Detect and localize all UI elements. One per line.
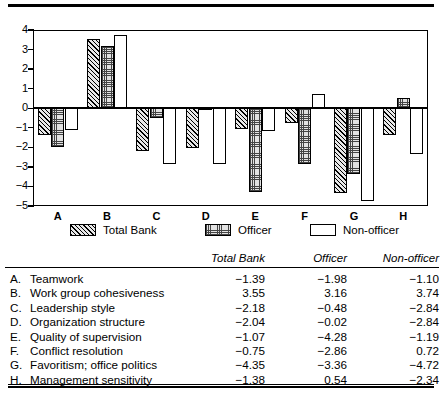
- cell-officer: −1.98: [265, 268, 347, 286]
- row-name: Leadership style: [30, 300, 179, 314]
- bar-G-officer: [347, 108, 360, 174]
- row-key: B.: [5, 286, 30, 300]
- y-tick-mark: [28, 166, 34, 167]
- row-name: Conflict resolution: [30, 343, 179, 357]
- table-row: E.Quality of supervision−1.07−4.28−1.19: [5, 329, 439, 343]
- x-tick-label-E: E: [235, 210, 275, 222]
- bar-H-officer: [397, 98, 410, 109]
- bar-G-total-bank: [334, 108, 347, 193]
- y-tick-label: −3: [4, 161, 28, 172]
- y-tick-label: 4: [4, 24, 28, 35]
- bar-B-officer: [101, 46, 114, 108]
- legend-item-total-bank: Total Bank: [70, 224, 157, 236]
- y-tick-mark: [28, 88, 34, 89]
- cell-total-bank: −1.39: [179, 268, 265, 286]
- bar-H-non-officer: [410, 108, 423, 154]
- cell-total-bank: −0.75: [179, 343, 265, 357]
- y-tick-mark: [28, 127, 34, 128]
- row-key: A.: [5, 268, 30, 286]
- bar-A-officer: [51, 108, 64, 147]
- chart-legend: Total BankOfficerNon-officer: [0, 222, 442, 248]
- cell-total-bank: −1.07: [179, 329, 265, 343]
- col-header-non-officer: Non-officer: [347, 252, 439, 268]
- x-tick-label-F: F: [285, 210, 325, 222]
- legend-label: Officer: [238, 224, 272, 236]
- empty-swatch-icon: [310, 224, 336, 236]
- y-tick-label: −5: [4, 200, 28, 211]
- bar-C-non-officer: [163, 108, 176, 164]
- bottom-divider-rule-thin: [8, 384, 434, 385]
- y-tick-mark: [28, 186, 34, 187]
- hatch-swatch-icon: [70, 224, 96, 236]
- x-tick-label-A: A: [38, 210, 78, 222]
- y-tick-mark: [28, 49, 34, 50]
- row-name: Favoritism; office politics: [30, 358, 179, 372]
- col-header-item: [5, 252, 179, 268]
- y-tick-mark: [28, 68, 34, 69]
- bar-B-non-officer: [114, 35, 127, 108]
- cell-total-bank: 3.55: [179, 286, 265, 300]
- bottom-divider-rule-thick: [8, 386, 434, 388]
- row-name: Organization structure: [30, 314, 179, 328]
- bar-C-total-bank: [136, 108, 149, 151]
- cell-non-officer: −2.84: [347, 300, 439, 314]
- dot-swatch-icon: [205, 224, 231, 236]
- bar-H-total-bank: [383, 108, 396, 135]
- cell-officer: 3.16: [265, 286, 347, 300]
- top-divider-rule: [8, 4, 434, 7]
- bar-D-officer: [199, 108, 212, 110]
- table-body: A.Teamwork−1.39−1.98−1.10B.Work group co…: [5, 268, 439, 387]
- bar-chart: 43210−1−2−3−4−5 ABCDEFGH: [0, 12, 442, 212]
- legend-label: Non-officer: [343, 224, 399, 236]
- row-key: E.: [5, 329, 30, 343]
- bar-G-non-officer: [361, 108, 374, 200]
- col-header-total-bank: Total Bank: [179, 252, 265, 268]
- x-tick-label-D: D: [186, 210, 226, 222]
- bar-E-non-officer: [262, 108, 275, 131]
- cell-officer: −3.36: [265, 358, 347, 372]
- bar-C-officer: [150, 108, 163, 117]
- cell-total-bank: −4.35: [179, 358, 265, 372]
- y-tick-label: −2: [4, 141, 28, 152]
- bar-B-total-bank: [87, 39, 100, 108]
- table-row: F.Conflict resolution−0.75−2.860.72: [5, 343, 439, 357]
- bar-F-officer: [298, 108, 311, 164]
- table-row: B.Work group cohesiveness3.553.163.74: [5, 286, 439, 300]
- x-tick-label-B: B: [87, 210, 127, 222]
- table-header-row: Total Bank Officer Non-officer: [5, 252, 439, 268]
- legend-item-non-officer: Non-officer: [310, 224, 399, 236]
- cell-non-officer: −1.19: [347, 329, 439, 343]
- y-tick-label: 0: [4, 102, 28, 113]
- cell-non-officer: 3.74: [347, 286, 439, 300]
- row-key: D.: [5, 314, 30, 328]
- cell-officer: −2.86: [265, 343, 347, 357]
- y-tick-mark: [28, 29, 34, 30]
- cell-officer: −0.02: [265, 314, 347, 328]
- cell-non-officer: 0.72: [347, 343, 439, 357]
- x-tick-label-H: H: [383, 210, 423, 222]
- row-key: F.: [5, 343, 30, 357]
- x-tick-label-C: C: [136, 210, 176, 222]
- col-header-officer: Officer: [265, 252, 347, 268]
- cell-total-bank: −2.18: [179, 300, 265, 314]
- cell-non-officer: −4.72: [347, 358, 439, 372]
- row-name: Work group cohesiveness: [30, 286, 179, 300]
- bar-F-non-officer: [312, 94, 325, 108]
- bar-A-non-officer: [65, 108, 78, 130]
- table-row: G.Favoritism; office politics−4.35−3.36−…: [5, 358, 439, 372]
- cell-officer: −4.28: [265, 329, 347, 343]
- row-name: Teamwork: [30, 268, 179, 286]
- bar-D-non-officer: [213, 108, 226, 164]
- x-tick-label-G: G: [334, 210, 374, 222]
- row-name: Quality of supervision: [30, 329, 179, 343]
- bar-A-total-bank: [38, 108, 51, 135]
- table-row: D.Organization structure−2.04−0.02−2.84: [5, 314, 439, 328]
- legend-label: Total Bank: [103, 224, 157, 236]
- row-key: C.: [5, 300, 30, 314]
- y-tick-mark: [28, 205, 34, 206]
- y-tick-label: 1: [4, 83, 28, 94]
- bar-D-total-bank: [186, 108, 199, 148]
- data-table-container: Total Bank Officer Non-officer A.Teamwor…: [0, 252, 442, 386]
- cell-non-officer: −2.84: [347, 314, 439, 328]
- table-row: A.Teamwork−1.39−1.98−1.10: [5, 268, 439, 286]
